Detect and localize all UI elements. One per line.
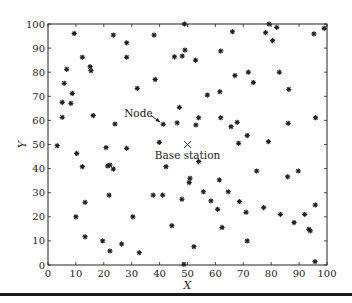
node-marker-icon bbox=[286, 87, 291, 92]
node-marker-icon bbox=[70, 91, 75, 96]
node-marker-icon bbox=[217, 177, 222, 182]
node-marker-icon bbox=[218, 115, 223, 120]
node-marker-icon bbox=[172, 54, 177, 59]
node-marker-icon bbox=[228, 124, 233, 129]
bottom-rule bbox=[0, 293, 352, 296]
node-marker-icon bbox=[68, 101, 73, 106]
node-marker-icon bbox=[151, 32, 156, 37]
node-marker-icon bbox=[277, 70, 282, 75]
node-marker-icon bbox=[296, 168, 301, 173]
node-marker-icon bbox=[179, 197, 184, 202]
node-marker-icon bbox=[107, 248, 112, 253]
x-tick-label: 80 bbox=[265, 268, 278, 279]
node-marker-icon bbox=[215, 207, 220, 212]
node-marker-icon bbox=[181, 262, 186, 267]
node-marker-icon bbox=[88, 64, 93, 69]
node-marker-icon bbox=[88, 68, 93, 73]
node-marker-icon bbox=[111, 32, 116, 37]
node-marker-icon bbox=[278, 212, 283, 217]
node-marker-icon bbox=[72, 31, 77, 36]
base-station-marker-icon bbox=[184, 141, 191, 148]
node-marker-icon bbox=[285, 174, 290, 179]
node-marker-icon bbox=[80, 164, 85, 169]
node-marker-icon bbox=[83, 200, 88, 205]
y-tick-label: 10 bbox=[32, 235, 45, 246]
y-tick-label: 70 bbox=[32, 91, 45, 102]
y-tick-label: 30 bbox=[32, 187, 45, 198]
y-tick-label: 50 bbox=[32, 139, 45, 150]
node-marker-icon bbox=[254, 168, 259, 173]
node-marker-icon bbox=[175, 120, 180, 125]
node-marker-icon bbox=[161, 122, 166, 127]
node-marker-icon bbox=[302, 212, 307, 217]
node-marker-icon bbox=[177, 105, 182, 110]
node-marker-icon bbox=[208, 198, 213, 203]
node-marker-icon bbox=[103, 145, 108, 150]
x-tick-label: 70 bbox=[237, 268, 250, 279]
node-annotation-label: Node bbox=[124, 107, 152, 119]
node-marker-icon bbox=[311, 31, 316, 36]
node-marker-icon bbox=[308, 228, 313, 233]
node-marker-icon bbox=[169, 223, 174, 228]
node-marker-icon bbox=[180, 53, 185, 58]
node-marker-icon bbox=[226, 189, 231, 194]
node-marker-icon bbox=[163, 164, 168, 169]
node-marker-icon bbox=[83, 234, 88, 239]
node-marker-icon bbox=[193, 58, 198, 63]
base-station-annotation-label: Base station bbox=[155, 149, 221, 161]
node-marker-icon bbox=[182, 47, 187, 52]
x-tick-label: 30 bbox=[125, 268, 138, 279]
node-marker-icon bbox=[60, 100, 65, 105]
arrowhead-icon bbox=[155, 118, 160, 122]
node-marker-icon bbox=[62, 81, 67, 86]
x-tick-label: 10 bbox=[70, 268, 83, 279]
node-marker-icon bbox=[187, 176, 192, 181]
y-tick-label: 60 bbox=[32, 115, 45, 126]
node-marker-icon bbox=[60, 115, 65, 120]
node-marker-icon bbox=[64, 67, 69, 72]
node-marker-icon bbox=[245, 238, 250, 243]
node-marker-icon bbox=[245, 133, 250, 138]
x-tick-label: 50 bbox=[181, 268, 194, 279]
node-marker-icon bbox=[232, 73, 237, 78]
node-marker-icon bbox=[266, 21, 271, 26]
node-marker-icon bbox=[236, 141, 241, 146]
node-marker-icon bbox=[286, 121, 291, 126]
node-marker-icon bbox=[205, 92, 210, 97]
node-marker-icon bbox=[107, 193, 112, 198]
x-tick-label: 20 bbox=[97, 268, 110, 279]
node-marker-icon bbox=[74, 151, 79, 156]
node-marker-icon bbox=[246, 70, 251, 75]
node-marker-icon bbox=[55, 143, 60, 148]
node-marker-icon bbox=[182, 21, 187, 26]
y-tick-label: 80 bbox=[32, 67, 45, 78]
x-tick-label: 0 bbox=[45, 268, 51, 279]
node-marker-icon bbox=[100, 238, 105, 243]
node-marker-icon bbox=[191, 244, 196, 249]
node-marker-icon bbox=[135, 86, 140, 91]
node-marker-icon bbox=[111, 166, 116, 171]
node-marker-icon bbox=[274, 25, 279, 30]
y-tick-label: 20 bbox=[32, 211, 45, 222]
node-marker-icon bbox=[322, 26, 327, 31]
node-marker-icon bbox=[237, 199, 242, 204]
node-marker-icon bbox=[107, 162, 112, 167]
node-marker-icon bbox=[219, 225, 224, 230]
node-marker-icon bbox=[187, 180, 192, 185]
node-marker-icon bbox=[112, 121, 117, 126]
plot-area: 0102030405060708090100010203040506070809… bbox=[16, 19, 337, 293]
node-marker-icon bbox=[137, 250, 142, 255]
x-tick-label: 60 bbox=[209, 268, 222, 279]
node-marker-icon bbox=[291, 220, 296, 225]
y-tick-label: 40 bbox=[32, 163, 45, 174]
node-marker-icon bbox=[119, 241, 124, 246]
x-tick-label: 40 bbox=[153, 268, 166, 279]
node-marker-icon bbox=[313, 202, 318, 207]
node-marker-icon bbox=[153, 77, 158, 82]
node-marker-icon bbox=[312, 259, 317, 264]
node-marker-icon bbox=[124, 55, 129, 60]
node-marker-icon bbox=[157, 140, 162, 145]
node-marker-icon bbox=[91, 113, 96, 118]
y-axis-label: Y bbox=[16, 139, 29, 148]
node-marker-icon bbox=[251, 80, 256, 85]
